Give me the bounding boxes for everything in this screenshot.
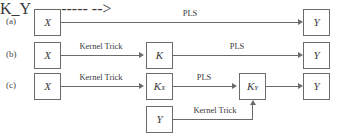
- edge-b-k-to-y: [173, 55, 301, 56]
- node-a-x-label: X: [44, 17, 51, 28]
- row-label-c: (c): [6, 80, 16, 90]
- node-c-kx-base: K: [154, 81, 161, 92]
- edge-label-b-pls: PLS: [197, 41, 277, 51]
- node-a-y-label: Y: [313, 17, 319, 28]
- node-b-k: K: [146, 42, 173, 69]
- row-label-a: (a): [6, 16, 16, 26]
- row-label-b: (b): [6, 49, 17, 59]
- node-c-ky-base: K: [247, 81, 254, 92]
- edge-label-c-pls: PLS: [173, 72, 235, 82]
- arrowhead-b-to-k: [139, 52, 144, 58]
- edge-b-x-to-k: [61, 55, 141, 56]
- arrowhead-c-to-kx: [139, 83, 144, 89]
- node-b-y-label: Y: [313, 50, 319, 61]
- node-c-kx: KX: [146, 73, 173, 100]
- node-c-y-input: Y: [146, 106, 173, 133]
- edge-c-ky-to-y: [266, 86, 301, 87]
- node-b-x: X: [34, 42, 61, 69]
- node-b-x-label: X: [44, 50, 51, 61]
- edge-label-c-kernel-trick-y: Kernel Trick: [176, 105, 254, 115]
- node-c-kx-subscript: X: [161, 85, 165, 92]
- node-a-x: X: [34, 9, 61, 36]
- edge-c-x-to-kx: [61, 86, 141, 87]
- node-c-y: Y: [303, 73, 330, 100]
- edge-c-kx-to-ky: [173, 86, 235, 87]
- arrowhead-c-to-ky: [232, 83, 237, 89]
- edge-label-b-kernel-trick: Kernel Trick: [62, 41, 140, 51]
- edge-label-a-pls: PLS: [150, 8, 230, 18]
- node-c-ky: KY: [239, 73, 266, 100]
- kernel-pls-diagram: (a) X PLS Y (b) X Kernel Trick K PLS Y (…: [0, 0, 337, 139]
- node-c-y-input-label: Y: [156, 114, 162, 125]
- edge-a-x-to-y: [61, 22, 301, 23]
- node-a-y: Y: [303, 9, 330, 36]
- node-c-y-label: Y: [313, 81, 319, 92]
- node-c-ky-subscript: Y: [254, 85, 258, 92]
- edge-label-c-kernel-trick: Kernel Trick: [62, 72, 140, 82]
- node-c-x-label: X: [44, 81, 51, 92]
- node-b-y: Y: [303, 42, 330, 69]
- node-c-x: X: [34, 73, 61, 100]
- node-b-k-label: K: [156, 50, 163, 61]
- edge-c-y-to-ky-horizontal: [173, 119, 253, 120]
